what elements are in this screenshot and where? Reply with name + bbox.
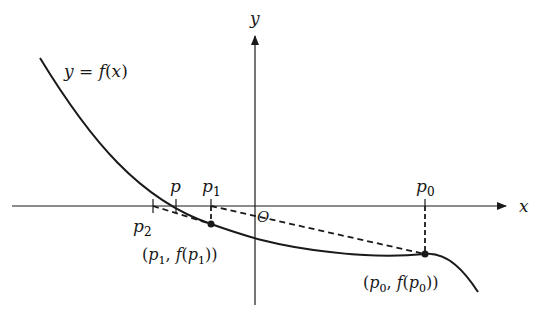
curve-label: y = f(x) — [63, 61, 128, 81]
secant-line-p1-p2 — [153, 206, 211, 224]
point-p0 — [422, 251, 429, 258]
secant-method-diagram: x y O y = f(x) p p1 p2 p0 — [0, 0, 551, 333]
tick-label-p: p — [170, 176, 181, 196]
tick-label-p0: p0 — [416, 176, 435, 199]
tick-label-p1: p1 — [202, 176, 221, 199]
point-label-p0: (p0, f(p0)) — [363, 273, 439, 295]
secant-line-p0-p1 — [211, 206, 425, 254]
point-p1 — [208, 221, 215, 228]
function-curve — [40, 58, 478, 292]
diagram-canvas: x y O y = f(x) p p1 p2 p0 — [0, 0, 551, 333]
point-label-p1: (p1, f(p1)) — [142, 245, 218, 267]
x-axis-label: x — [519, 196, 529, 216]
y-axis-label: y — [249, 8, 260, 28]
tick-label-p2: p2 — [133, 216, 152, 239]
